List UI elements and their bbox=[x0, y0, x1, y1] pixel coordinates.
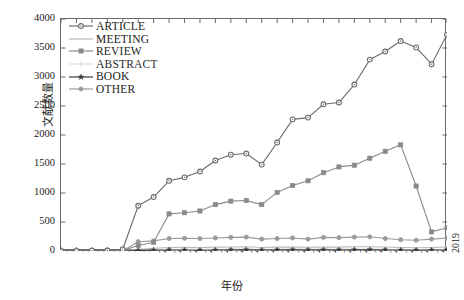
x-tick-label: 2019 bbox=[450, 233, 461, 253]
chart-figure: 文献数量 年份 05001000150020002500300035004000… bbox=[0, 0, 464, 300]
legend-item-review[interactable]: REVIEW bbox=[68, 45, 158, 58]
legend-label: MEETING bbox=[96, 33, 149, 46]
legend-label: BOOK bbox=[96, 70, 129, 83]
legend-label: OTHER bbox=[96, 83, 135, 96]
legend-marker-icon bbox=[68, 58, 94, 70]
legend-marker-icon bbox=[68, 20, 94, 32]
legend-marker-icon bbox=[68, 45, 94, 57]
legend-item-other[interactable]: OTHER bbox=[68, 83, 158, 96]
legend-marker-icon bbox=[68, 71, 94, 83]
legend-marker-icon bbox=[68, 83, 94, 95]
chart-legend: ARTICLEMEETINGREVIEWABSTRACTBOOKOTHER bbox=[68, 20, 158, 96]
legend-item-article[interactable]: ARTICLE bbox=[68, 20, 158, 33]
legend-marker-icon bbox=[68, 33, 94, 45]
legend-item-book[interactable]: BOOK bbox=[68, 70, 158, 83]
legend-label: ABSTRACT bbox=[96, 58, 158, 71]
legend-label: REVIEW bbox=[96, 45, 142, 58]
legend-item-abstract[interactable]: ABSTRACT bbox=[68, 58, 158, 71]
legend-label: ARTICLE bbox=[96, 20, 145, 33]
legend-item-meeting[interactable]: MEETING bbox=[68, 33, 158, 46]
